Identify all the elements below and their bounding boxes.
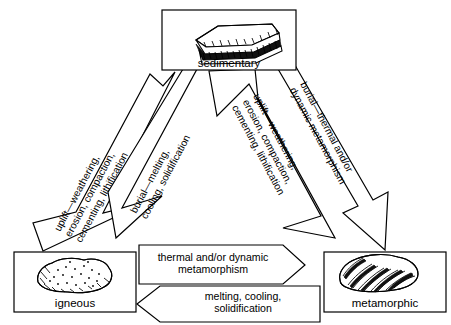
node-sedimentary-label: sedimentary — [198, 57, 261, 69]
rock-cycle-diagram: sedimentary — [0, 0, 451, 325]
node-igneous-label: igneous — [55, 297, 96, 309]
arrow-metamorphic-to-sedimentary-label: uplift—weathering, erosion, compaction, … — [230, 92, 308, 197]
arrow-metamorphic-to-igneous-line2: solidification — [214, 302, 272, 314]
node-metamorphic-label: metamorphic — [352, 297, 419, 309]
arrow-igneous-to-metamorphic-line2: metamorphism — [178, 263, 248, 275]
arrow-igneous-to-metamorphic-line1: thermal and/or dynamic — [158, 251, 269, 263]
arrow-metamorphic-to-igneous-line1: melting, cooling, — [205, 290, 282, 302]
